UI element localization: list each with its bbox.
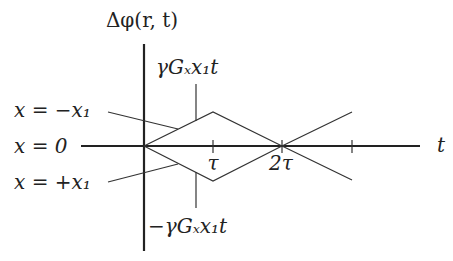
phase-diagram: Δφ(r, t) t γGₓx₁t −γGₓx₁t x = −x₁ x = 0 … <box>0 0 453 261</box>
curve-label-x-plus-x1: x = +x₁ <box>14 170 91 194</box>
tick-label-tau: τ <box>207 151 219 175</box>
curve-label-x-minus-x1: x = −x₁ <box>14 98 91 122</box>
y-axis-label: Δφ(r, t) <box>106 8 178 32</box>
x-axis-label: t <box>437 133 446 157</box>
upper-annotation: γGₓx₁t <box>156 55 219 79</box>
lower-annotation: −γGₓx₁t <box>148 214 228 238</box>
tick-label-2tau: 2τ <box>268 151 294 175</box>
curve-label-x-0: x = 0 <box>14 134 68 158</box>
